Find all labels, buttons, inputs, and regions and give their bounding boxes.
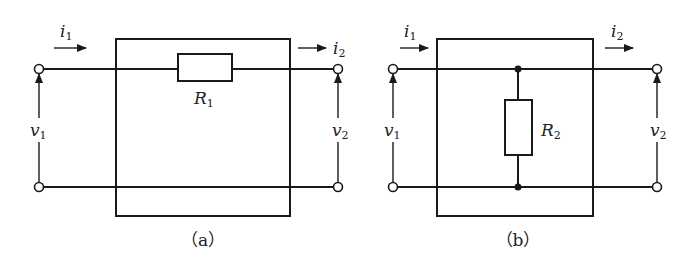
terminal-in-top-a (35, 65, 44, 74)
terminal-out-bottom-a (334, 183, 343, 192)
terminal-out-top-a (334, 65, 343, 74)
resistor-label-r1: R1 (193, 88, 214, 110)
caption-a: （a） (181, 230, 225, 250)
two-port-box-a (116, 39, 290, 216)
current-label-i1-a: i1 (60, 21, 72, 43)
voltage-label-v2-a: v2 (332, 120, 349, 142)
two-port-diagrams: i1 i2 R1 v1 v2 （a） i1 i2 R2 v1 v2 (0, 0, 690, 262)
junction-dot-bottom (515, 184, 522, 191)
voltage-label-v2-b: v2 (650, 120, 667, 142)
terminal-out-top-b (653, 65, 662, 74)
current-label-i2-a: i2 (333, 38, 345, 60)
junction-dot-top (515, 66, 522, 73)
voltage-label-v1-b: v1 (384, 120, 401, 142)
terminal-in-bottom-a (35, 183, 44, 192)
resistor-label-r2: R2 (540, 120, 561, 142)
resistor-r1 (178, 54, 232, 81)
current-label-i2-b: i2 (611, 21, 623, 43)
current-label-i1-b: i1 (404, 21, 416, 43)
resistor-r2 (505, 100, 532, 155)
diagram-b: i1 i2 R2 v1 v2 （b） (384, 21, 667, 250)
terminal-out-bottom-b (653, 183, 662, 192)
terminal-in-bottom-b (389, 183, 398, 192)
caption-b: （b） (496, 230, 541, 250)
voltage-label-v1-a: v1 (30, 120, 47, 142)
two-port-box-b (437, 39, 593, 216)
diagram-a: i1 i2 R1 v1 v2 （a） (30, 21, 349, 250)
terminal-in-top-b (389, 65, 398, 74)
